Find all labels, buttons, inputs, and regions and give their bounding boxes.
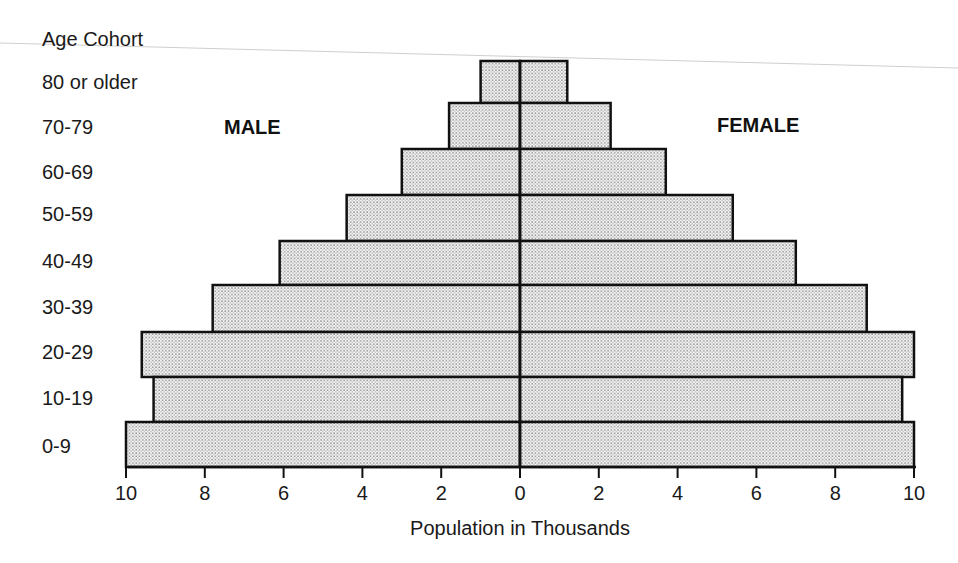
female-bar (520, 241, 796, 285)
category-label: 80 or older (42, 71, 138, 93)
male-bar (142, 332, 520, 377)
x-tick-label: 10 (903, 482, 925, 504)
female-bar (520, 332, 914, 377)
x-tick-label: 8 (199, 482, 210, 504)
male-bar (126, 422, 520, 467)
category-label: 70-79 (42, 116, 93, 138)
x-tick-label: 4 (672, 482, 683, 504)
male-bar (402, 149, 520, 195)
male-bar (481, 61, 520, 103)
male-bar (213, 285, 520, 332)
female-bar (520, 377, 902, 422)
x-tick-label: 6 (751, 482, 762, 504)
male-bar (154, 377, 520, 422)
female-bar (520, 285, 867, 332)
x-axis-ticks: 1086420246810 (115, 467, 925, 504)
category-label: 10-19 (42, 387, 93, 409)
male-bar (347, 195, 520, 241)
category-label: 30-39 (42, 296, 93, 318)
category-labels: 80 or older70-7960-6950-5940-4930-3920-2… (42, 71, 138, 457)
category-axis-title: Age Cohort (42, 28, 144, 50)
category-label: 50-59 (42, 203, 93, 225)
category-label: 0-9 (42, 435, 71, 457)
male-series-label: MALE (224, 116, 281, 138)
x-tick-label: 0 (514, 482, 525, 504)
x-tick-label: 2 (436, 482, 447, 504)
x-tick-label: 4 (357, 482, 368, 504)
category-label: 40-49 (42, 250, 93, 272)
x-tick-label: 2 (593, 482, 604, 504)
population-pyramid-chart: Age Cohort 80 or older70-7960-6950-5940-… (0, 0, 958, 563)
x-tick-label: 10 (115, 482, 137, 504)
x-tick-label: 6 (278, 482, 289, 504)
category-label: 60-69 (42, 161, 93, 183)
x-axis-title: Population in Thousands (410, 517, 630, 539)
female-series-label: FEMALE (717, 114, 799, 136)
page-edge-line (0, 43, 958, 68)
female-bar (520, 103, 611, 149)
x-tick-label: 8 (830, 482, 841, 504)
female-bar (520, 195, 733, 241)
female-bar (520, 422, 914, 467)
male-bar (280, 241, 520, 285)
female-bar (520, 149, 666, 195)
male-bar (449, 103, 520, 149)
female-bar (520, 61, 567, 103)
category-label: 20-29 (42, 341, 93, 363)
male-bars (126, 61, 520, 467)
